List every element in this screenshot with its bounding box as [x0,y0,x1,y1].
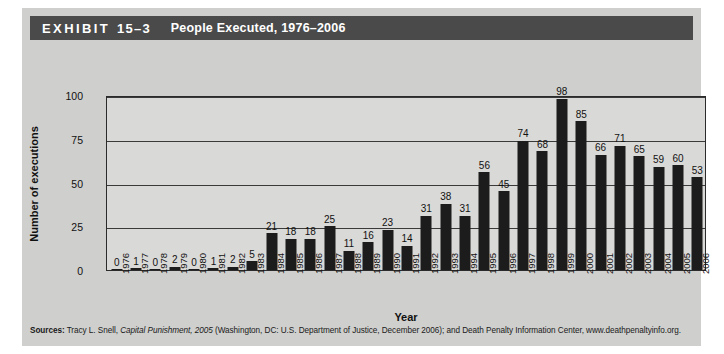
y-axis-title: Number of executions [28,114,40,254]
exhibit-header: EXHIBIT 15–3 People Executed, 1976–2006 [30,16,693,40]
bar-value-label: 65 [634,144,645,155]
x-tick-label: 1980 [197,253,208,274]
bar [556,99,567,271]
plot-area: 0102012521181825111623143138315645746898… [106,96,706,271]
bar-group: 2 [223,97,242,270]
bar-value-label: 21 [266,221,277,232]
x-tick-label: 2002 [623,253,634,274]
source-text-2: (Washington, DC: U.S. Department of Just… [213,326,681,335]
bar-group: 74 [513,97,532,270]
bar-value-label: 66 [595,142,606,153]
y-tick-label: 50 [43,178,83,190]
x-tick-label: 1988 [352,253,363,274]
bar-group: 18 [281,97,300,270]
bar-value-label: 18 [305,226,316,237]
chart-figure: Number of executions 0102012521181825111… [34,52,689,315]
bar-value-label: 31 [421,203,432,214]
x-tick-label: 1998 [545,253,556,274]
x-tick-label: 1992 [429,253,440,274]
source-citation-title: Capital Punishment, 2005 [120,326,213,335]
y-tick-label: 75 [43,134,83,146]
bar-group: 66 [591,97,610,270]
bar-group: 0 [107,97,126,270]
exhibit-card: EXHIBIT 15–3 People Executed, 1976–2006 … [22,8,701,346]
bar-value-label: 53 [692,165,703,176]
bar-value-label: 45 [498,179,509,190]
x-tick-label: 1997 [526,253,537,274]
bar-value-label: 0 [114,257,120,268]
bar-value-label: 71 [614,133,625,144]
x-tick-label: 1996 [507,253,518,274]
x-tick-label: 1981 [216,253,227,274]
bars-layer: 0102012521181825111623143138315645746898… [107,97,705,270]
bar [576,121,587,270]
bar-group: 60 [668,97,687,270]
bar-group: 23 [378,97,397,270]
x-tick-label: 1990 [391,253,402,274]
bar-value-label: 2 [172,254,178,265]
bar-group: 18 [301,97,320,270]
x-tick-label: 1985 [294,253,305,274]
bar-value-label: 18 [285,226,296,237]
x-tick-label: 1984 [275,253,286,274]
bar-group: 2 [165,97,184,270]
bar-value-label: 38 [440,191,451,202]
bar-value-label: 31 [459,203,470,214]
bar-group: 68 [533,97,552,270]
bar-group: 38 [436,97,455,270]
bar-value-label: 16 [363,230,374,241]
bar-value-label: 2 [230,254,236,265]
x-tick-label: 2004 [662,253,673,274]
bar-value-label: 85 [576,109,587,120]
bar-value-label: 11 [344,238,354,249]
bar-value-label: 1 [133,256,139,267]
bar [518,141,529,271]
x-tick-label: 1979 [178,253,189,274]
bar-group: 56 [475,97,494,270]
bar-group: 65 [630,97,649,270]
x-tick-label: 1977 [139,253,150,274]
x-tick-label: 2001 [604,253,615,274]
bar-group: 53 [688,97,707,270]
x-tick-label: 1986 [313,253,324,274]
source-text-1: Tracy L. Snell, [65,326,121,335]
x-tick-label: 1989 [371,253,382,274]
bar-group: 1 [126,97,145,270]
bar-value-label: 14 [401,233,412,244]
bar-group: 16 [359,97,378,270]
exhibit-label: EXHIBIT [42,21,110,36]
x-tick-label: 2000 [584,253,595,274]
bar-group: 31 [455,97,474,270]
bar-group: 11 [339,97,358,270]
x-tick-label: 1987 [333,253,344,274]
exhibit-number: 15–3 [117,21,151,36]
x-tick-label: 1991 [410,253,421,274]
x-tick-label: 1995 [487,253,498,274]
x-axis-title: Year [106,311,706,323]
source-label: Sources: [30,326,65,335]
y-tick-label: 100 [43,90,83,102]
x-tick-label: 1983 [255,253,266,274]
bar-value-label: 68 [537,139,548,150]
x-tick-label: 1978 [158,253,169,274]
bar-group: 59 [649,97,668,270]
bar-group: 1 [204,97,223,270]
x-tick-label: 2006 [700,253,711,274]
bar-value-label: 25 [324,214,335,225]
y-tick-label: 0 [43,265,83,277]
x-tick-label: 2003 [642,253,653,274]
exhibit-title: People Executed, 1976–2006 [171,21,346,35]
bar-group: 0 [146,97,165,270]
bar-group: 21 [262,97,281,270]
bar-value-label: 23 [382,217,393,228]
bar-group: 5 [242,97,261,270]
x-tick-label: 1999 [565,253,576,274]
bar-group: 0 [184,97,203,270]
bar-value-label: 59 [653,154,664,165]
y-tick-label: 25 [43,221,83,233]
bar-value-label: 74 [518,128,529,139]
bar-group: 31 [417,97,436,270]
bar-group: 71 [610,97,629,270]
bar-value-label: 60 [672,153,683,164]
x-axis-ticks: 1976197719781979198019811982198319841985… [106,274,706,314]
